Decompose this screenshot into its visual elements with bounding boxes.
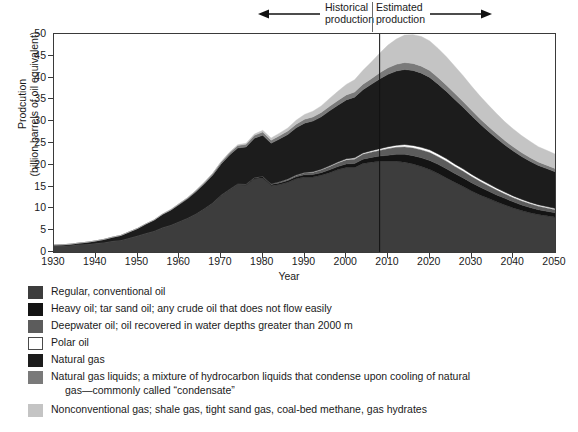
y-tick-label: 25 <box>6 137 46 148</box>
chart-legend: Regular, conventional oil Heavy oil; tar… <box>28 285 573 420</box>
left-arrow-icon <box>258 8 320 20</box>
y-tick-label: 45 <box>6 50 46 61</box>
historical-production-label: Historical production <box>325 2 374 25</box>
x-tick-mark <box>512 253 513 258</box>
legend-swatch <box>28 337 43 350</box>
x-tick-mark <box>178 253 179 258</box>
legend-swatch <box>28 404 43 417</box>
y-tick-label: 40 <box>6 72 46 83</box>
legend-label: Polar oil <box>51 336 89 350</box>
y-tick-label: 10 <box>6 202 46 213</box>
y-tick-mark <box>48 251 53 252</box>
x-tick-mark <box>304 253 305 258</box>
y-tick-mark <box>48 77 53 78</box>
x-tick-mark <box>429 253 430 258</box>
legend-label: Deepwater oil; oil recovered in water de… <box>51 319 353 333</box>
y-tick-mark <box>48 120 53 121</box>
x-tick-mark <box>137 253 138 258</box>
y-tick-label: 0 <box>6 246 46 257</box>
y-tick-mark <box>48 229 53 230</box>
legend-item: Deepwater oil; oil recovered in water de… <box>28 319 573 333</box>
legend-item: Polar oil <box>28 336 573 350</box>
y-tick-mark <box>48 142 53 143</box>
stacked-area-chart <box>54 34 555 252</box>
x-tick-label: 1930 <box>30 256 76 267</box>
y-tick-label: 50 <box>6 28 46 39</box>
legend-label: Natural gas <box>51 353 105 367</box>
y-tick-mark <box>48 98 53 99</box>
x-tick-mark <box>220 253 221 258</box>
legend-label: Natural gas liquids; a mixture of hydroc… <box>51 370 470 397</box>
legend-label-continuation: gas—commonly called “condensate” <box>51 384 470 398</box>
legend-label: Regular, conventional oil <box>51 285 165 299</box>
estimated-production-annotation: Estimated production <box>376 2 492 25</box>
legend-item: Regular, conventional oil <box>28 285 573 299</box>
legend-swatch <box>28 303 43 316</box>
x-tick-mark <box>387 253 388 258</box>
x-axis-title: Year <box>0 270 578 282</box>
x-tick-label: 2050 <box>531 256 577 267</box>
chart-plot-area <box>53 33 556 253</box>
annotation-band: Historical production Estimated producti… <box>0 0 578 33</box>
legend-item: Natural gas liquids; a mixture of hydroc… <box>28 370 573 397</box>
x-tick-mark <box>262 253 263 258</box>
legend-item: Heavy oil; tar sand oil; any crude oil t… <box>28 302 573 316</box>
y-tick-label: 35 <box>6 93 46 104</box>
historical-production-annotation: Historical production <box>258 2 374 25</box>
right-arrow-icon <box>430 8 492 20</box>
legend-item: Nonconventional gas; shale gas, tight sa… <box>28 403 573 417</box>
y-tick-mark <box>48 164 53 165</box>
legend-swatch <box>28 320 43 333</box>
legend-label: Nonconventional gas; shale gas, tight sa… <box>51 403 427 417</box>
legend-swatch <box>28 286 43 299</box>
y-tick-mark <box>48 55 53 56</box>
y-tick-label: 30 <box>6 115 46 126</box>
y-tick-label: 15 <box>6 181 46 192</box>
x-tick-mark <box>345 253 346 258</box>
area-series-group <box>54 35 555 252</box>
x-tick-mark <box>471 253 472 258</box>
annotation-divider <box>372 2 373 32</box>
legend-swatch <box>28 371 43 384</box>
y-tick-mark <box>48 207 53 208</box>
y-tick-label: 5 <box>6 224 46 235</box>
legend-label: Heavy oil; tar sand oil; any crude oil t… <box>51 302 332 316</box>
legend-swatch <box>28 354 43 367</box>
estimated-production-label: Estimated production <box>376 2 425 25</box>
y-tick-mark <box>48 186 53 187</box>
legend-item: Natural gas <box>28 353 573 367</box>
y-tick-label: 20 <box>6 159 46 170</box>
x-tick-mark <box>95 253 96 258</box>
